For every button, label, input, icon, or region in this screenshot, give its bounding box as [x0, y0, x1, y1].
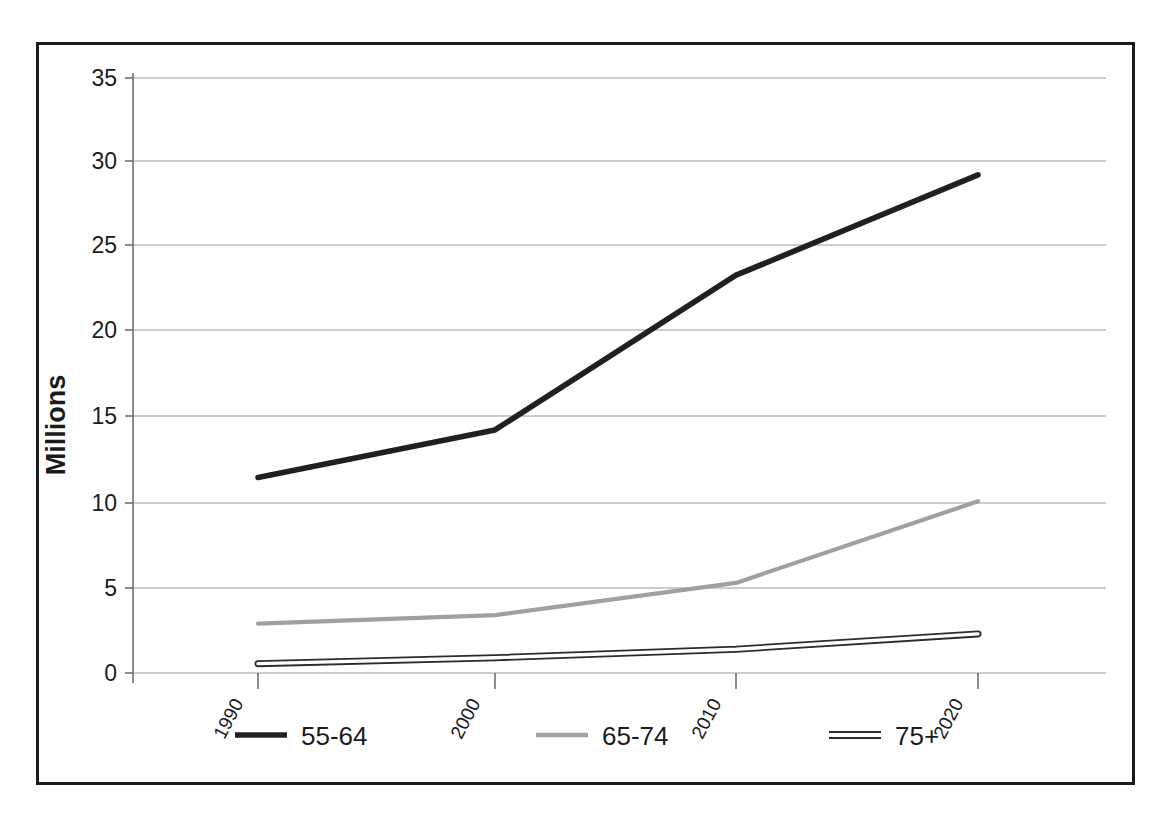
chart-frame: 35 30 25 20 15 10 5 0 Millions 1990 2000…	[36, 42, 1135, 785]
x-tick-label-2010: 2010	[687, 695, 725, 742]
legend-item-75-plus[interactable]: 75+	[829, 721, 939, 751]
y-tick-label-0: 0	[104, 660, 117, 686]
x-axis	[258, 673, 978, 689]
y-tick-label-35: 35	[91, 65, 117, 91]
y-tick-label-15: 15	[91, 403, 117, 429]
legend-label-65-74: 65-74	[602, 721, 669, 751]
gridlines	[133, 78, 1106, 673]
y-tick-label-5: 5	[104, 575, 117, 601]
line-chart: 35 30 25 20 15 10 5 0 Millions 1990 2000…	[39, 45, 1132, 782]
legend-label-75-plus: 75+	[895, 721, 939, 751]
legend: 55-64 65-74 75+	[235, 721, 939, 751]
y-tick-label-20: 20	[91, 317, 117, 343]
y-axis-title: Millions	[41, 375, 71, 476]
series-line-65-74	[258, 501, 978, 623]
legend-item-55-64[interactable]: 55-64	[235, 721, 368, 751]
legend-item-65-74[interactable]: 65-74	[536, 721, 669, 751]
legend-label-55-64: 55-64	[301, 721, 368, 751]
y-tick-label-25: 25	[91, 232, 117, 258]
series-line-75-plus-outline	[258, 634, 978, 664]
series-group	[258, 175, 978, 664]
y-tick-label-10: 10	[91, 490, 117, 516]
x-tick-label-2000: 2000	[446, 695, 484, 742]
y-tick-labels: 35 30 25 20 15 10 5 0	[91, 65, 117, 686]
y-axis	[125, 73, 133, 683]
y-tick-label-30: 30	[91, 148, 117, 174]
series-line-55-64	[258, 175, 978, 478]
